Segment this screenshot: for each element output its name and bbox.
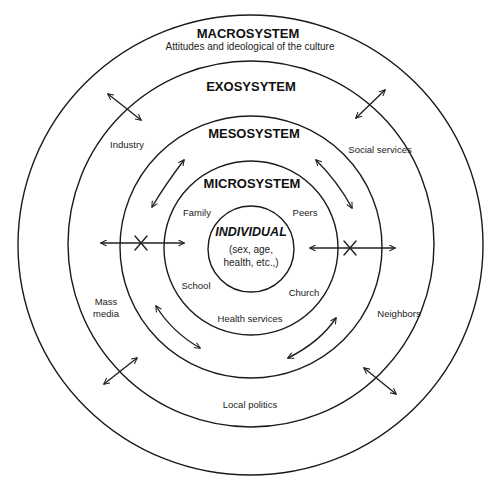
- arrow-lower-right-diagonal: [364, 368, 396, 394]
- label-school: School: [181, 280, 210, 291]
- label-family: Family: [183, 207, 211, 218]
- microsystem-title: MICROSYSTEM: [204, 176, 301, 191]
- label-health-services: Health services: [218, 313, 283, 324]
- arrow-upper-left-diagonal: [108, 94, 141, 120]
- individual-detail-line2: health, etc.,): [223, 257, 278, 268]
- label-industry: Industry: [110, 139, 144, 150]
- label-local-politics: Local politics: [223, 399, 278, 410]
- individual-detail-line1: (sex, age,: [229, 244, 273, 255]
- macrosystem-title: MACROSYSTEM: [197, 26, 300, 41]
- arrow-meso-upper-right: [316, 160, 352, 208]
- label-mass-media-line1: Mass: [95, 296, 118, 307]
- label-neighbors: Neighbors: [377, 308, 421, 319]
- arrow-lower-left-diagonal: [104, 358, 137, 384]
- mesosystem-title: MESOSYSTEM: [208, 126, 300, 141]
- ecological-systems-diagram: MACROSYSTEM Attitudes and ideological of…: [0, 0, 494, 494]
- macrosystem-subtitle: Attitudes and ideological of the culture: [166, 41, 335, 52]
- label-church: Church: [289, 287, 320, 298]
- label-peers: Peers: [293, 207, 318, 218]
- individual-title: INDIVIDUAL: [215, 225, 287, 239]
- label-mass-media-line2: media: [93, 308, 120, 319]
- arrow-upper-right-diagonal: [356, 90, 385, 118]
- exosystem-title: EXOSYSYTEM: [206, 79, 296, 94]
- label-social-services: Social services: [348, 144, 412, 155]
